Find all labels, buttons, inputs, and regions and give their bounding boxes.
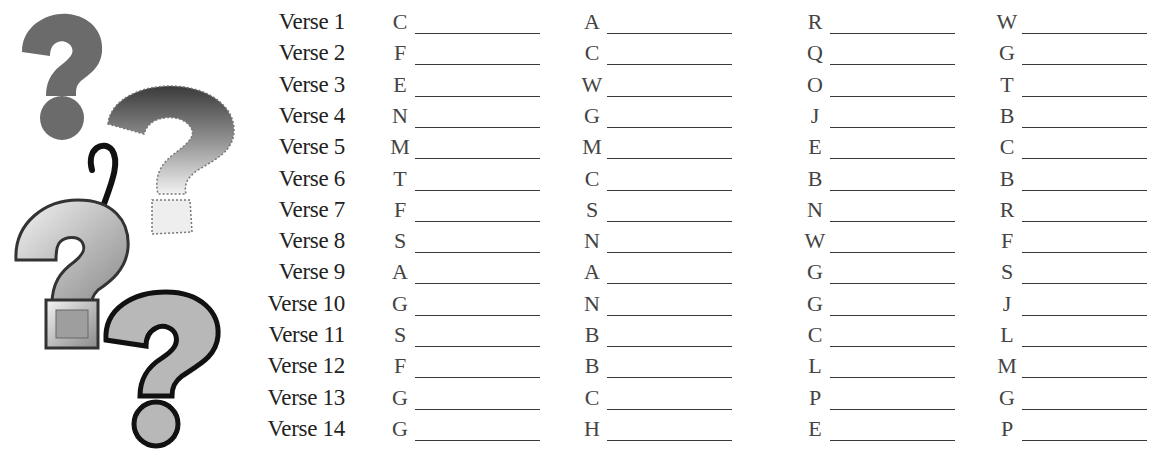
- answer-blank-line[interactable]: [830, 315, 955, 316]
- verse-row: Verse 11SBCL: [0, 319, 1167, 350]
- answer-blank-line[interactable]: [415, 190, 540, 191]
- starting-letter: C: [580, 163, 604, 194]
- answer-blank-line[interactable]: [607, 409, 732, 410]
- answer-blank-line[interactable]: [607, 252, 732, 253]
- answer-blank-line[interactable]: [607, 346, 732, 347]
- verse-label: Verse 6: [279, 163, 345, 194]
- answer-blank-line[interactable]: [1022, 158, 1147, 159]
- answer-blank-line[interactable]: [1022, 127, 1147, 128]
- verse-row: Verse 9AAGS: [0, 256, 1167, 287]
- answer-blank-line[interactable]: [1022, 409, 1147, 410]
- starting-letter: F: [388, 350, 412, 381]
- verse-row: Verse 5MMEC: [0, 131, 1167, 162]
- starting-letter: P: [803, 382, 827, 413]
- starting-letter: N: [580, 225, 604, 256]
- answer-blank-line[interactable]: [415, 33, 540, 34]
- answer-blank-line[interactable]: [830, 409, 955, 410]
- answer-blank-line[interactable]: [1022, 64, 1147, 65]
- answer-blank-line[interactable]: [830, 158, 955, 159]
- verse-label: Verse 5: [279, 131, 345, 162]
- answer-blank-line[interactable]: [1022, 252, 1147, 253]
- starting-letter: S: [388, 319, 412, 350]
- starting-letter: F: [995, 225, 1019, 256]
- starting-letter: N: [388, 100, 412, 131]
- verse-row: Verse 2FCQG: [0, 37, 1167, 68]
- verse-label: Verse 14: [268, 413, 345, 444]
- answer-blank-line[interactable]: [830, 377, 955, 378]
- starting-letter: C: [580, 37, 604, 68]
- verse-label: Verse 13: [268, 382, 345, 413]
- starting-letter: B: [580, 350, 604, 381]
- starting-letter: J: [803, 100, 827, 131]
- answer-blank-line[interactable]: [830, 283, 955, 284]
- answer-blank-line[interactable]: [415, 96, 540, 97]
- answer-blank-line[interactable]: [415, 377, 540, 378]
- starting-letter: J: [995, 288, 1019, 319]
- answer-blank-line[interactable]: [607, 283, 732, 284]
- answer-blank-line[interactable]: [415, 64, 540, 65]
- starting-letter: N: [803, 194, 827, 225]
- answer-blank-line[interactable]: [830, 440, 955, 441]
- starting-letter: C: [803, 319, 827, 350]
- answer-blank-line[interactable]: [607, 377, 732, 378]
- answer-blank-line[interactable]: [607, 64, 732, 65]
- answer-blank-line[interactable]: [830, 64, 955, 65]
- answer-blank-line[interactable]: [415, 221, 540, 222]
- answer-blank-line[interactable]: [415, 346, 540, 347]
- starting-letter: M: [580, 131, 604, 162]
- answer-blank-line[interactable]: [607, 221, 732, 222]
- answer-blank-line[interactable]: [415, 127, 540, 128]
- answer-blank-line[interactable]: [607, 190, 732, 191]
- answer-blank-line[interactable]: [415, 283, 540, 284]
- verse-label: Verse 1: [279, 6, 345, 37]
- answer-blank-line[interactable]: [830, 127, 955, 128]
- answer-blank-line[interactable]: [830, 190, 955, 191]
- starting-letter: B: [803, 163, 827, 194]
- answer-blank-line[interactable]: [830, 96, 955, 97]
- starting-letter: S: [580, 194, 604, 225]
- answer-blank-line[interactable]: [1022, 283, 1147, 284]
- verse-letter-worksheet: Verse 1CARWVerse 2FCQGVerse 3EWOTVerse 4…: [0, 0, 1167, 462]
- starting-letter: A: [388, 256, 412, 287]
- answer-blank-line[interactable]: [415, 315, 540, 316]
- verse-row: Verse 1CARW: [0, 6, 1167, 37]
- starting-letter: G: [580, 100, 604, 131]
- starting-letter: G: [803, 288, 827, 319]
- starting-letter: G: [803, 256, 827, 287]
- starting-letter: L: [995, 319, 1019, 350]
- answer-blank-line[interactable]: [607, 127, 732, 128]
- starting-letter: G: [995, 382, 1019, 413]
- answer-blank-line[interactable]: [1022, 96, 1147, 97]
- answer-blank-line[interactable]: [607, 33, 732, 34]
- answer-blank-line[interactable]: [415, 440, 540, 441]
- answer-blank-line[interactable]: [607, 158, 732, 159]
- answer-blank-line[interactable]: [415, 252, 540, 253]
- verse-label: Verse 3: [279, 69, 345, 100]
- starting-letter: A: [580, 6, 604, 37]
- answer-blank-line[interactable]: [607, 315, 732, 316]
- answer-blank-line[interactable]: [1022, 190, 1147, 191]
- starting-letter: C: [995, 131, 1019, 162]
- verse-label: Verse 2: [279, 37, 345, 68]
- answer-blank-line[interactable]: [830, 346, 955, 347]
- answer-blank-line[interactable]: [1022, 315, 1147, 316]
- answer-blank-line[interactable]: [607, 96, 732, 97]
- answer-blank-line[interactable]: [830, 221, 955, 222]
- answer-blank-line[interactable]: [1022, 377, 1147, 378]
- answer-blank-line[interactable]: [1022, 33, 1147, 34]
- starting-letter: H: [580, 413, 604, 444]
- answer-blank-line[interactable]: [1022, 221, 1147, 222]
- answer-blank-line[interactable]: [415, 158, 540, 159]
- starting-letter: F: [388, 37, 412, 68]
- answer-blank-line[interactable]: [1022, 346, 1147, 347]
- answer-blank-line[interactable]: [607, 440, 732, 441]
- verse-label: Verse 11: [268, 319, 345, 350]
- verse-row: Verse 3EWOT: [0, 69, 1167, 100]
- answer-blank-line[interactable]: [830, 33, 955, 34]
- answer-blank-line[interactable]: [415, 409, 540, 410]
- answer-blank-line[interactable]: [830, 252, 955, 253]
- answer-blank-line[interactable]: [1022, 440, 1147, 441]
- starting-letter: C: [388, 6, 412, 37]
- starting-letter: P: [995, 413, 1019, 444]
- starting-letter: G: [388, 413, 412, 444]
